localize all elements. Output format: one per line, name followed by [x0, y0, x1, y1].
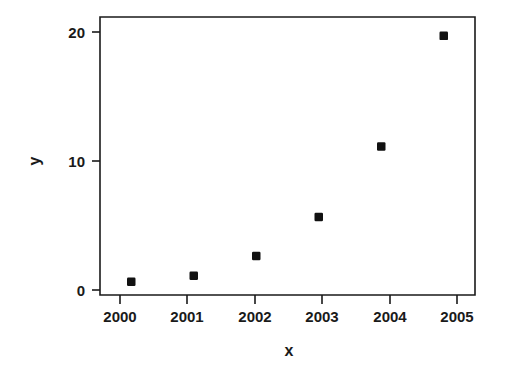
scatter-plot-figure: 0 10 20 2000 2001 2002 2003 2004 2005 x …	[0, 0, 508, 375]
data-point	[127, 278, 136, 287]
y-axis-title: y	[26, 156, 43, 165]
x-axis-title: x	[285, 342, 294, 359]
x-tick-label-2002: 2002	[238, 308, 271, 325]
y-tick-label-0: 0	[77, 282, 85, 299]
data-point	[377, 142, 386, 151]
y-tick-label-20: 20	[68, 24, 85, 41]
data-point	[315, 213, 324, 222]
x-tick-label-2001: 2001	[170, 308, 203, 325]
x-tick-label-2000: 2000	[103, 308, 136, 325]
x-tick-label-2003: 2003	[305, 308, 338, 325]
x-tick-label-2005: 2005	[440, 308, 473, 325]
x-tick-label-2004: 2004	[373, 308, 407, 325]
plot-canvas: 0 10 20 2000 2001 2002 2003 2004 2005 x …	[0, 0, 508, 375]
y-tick-label-10: 10	[68, 153, 85, 170]
data-point	[440, 32, 449, 41]
data-point	[190, 272, 199, 281]
data-point	[252, 252, 261, 261]
